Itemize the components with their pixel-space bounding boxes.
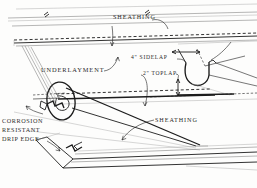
left-underlayment-edge-strips	[22, 46, 66, 103]
label-sheathing-lower: SHEATHING	[155, 117, 198, 123]
sidelap-dimension-arrows	[172, 49, 205, 66]
label-drip-edge-line1: CORROSION	[2, 118, 43, 124]
technical-drawing: .k{fill:none;stroke:#1c1c1c;} .thin{stro…	[0, 0, 257, 188]
figure-canvas: .k{fill:none;stroke:#1c1c1c;} .thin{stro…	[0, 0, 257, 188]
toplap-dimension-arrow	[176, 79, 180, 96]
underlayment-curl-right	[185, 56, 257, 95]
upper-deck-lower-lines	[16, 40, 257, 46]
drip-edge-profile	[36, 133, 257, 170]
label-sheathing-top: SHEATHING	[113, 14, 156, 20]
label-toplap-dimension: 2" TOPLAP	[143, 71, 177, 77]
label-underlayment: UNDERLAYMENT	[41, 67, 104, 73]
label-drip-edge-line3: DRIP EDGE	[2, 136, 39, 142]
upper-underlayment-top-edge	[14, 33, 257, 46]
label-drip-edge-line2: RESISTANT	[2, 127, 40, 133]
label-sidelap-dimension: 4" SIDELAP	[131, 55, 167, 61]
